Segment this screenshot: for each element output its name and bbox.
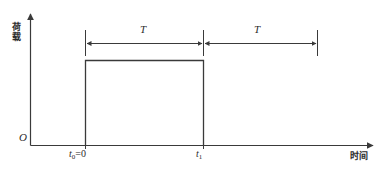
x-tick-label-t0: t0=0 bbox=[69, 149, 86, 161]
load-pulse-rectangle bbox=[86, 61, 204, 146]
y-axis-label: 荷载 bbox=[7, 22, 20, 42]
x-tick-label-t1: t1 bbox=[196, 149, 202, 161]
origin-label: O bbox=[19, 132, 27, 143]
load-vs-time-figure: O 荷载 时间 t0=0 t1 T T bbox=[0, 0, 389, 174]
figure-canvas bbox=[0, 0, 389, 174]
tick-subscript-t1: 1 bbox=[199, 153, 203, 161]
tick-suffix-t0: =0 bbox=[75, 148, 86, 159]
x-axis-label: 时间 bbox=[350, 152, 368, 161]
period-label-1: T bbox=[140, 24, 146, 35]
period-label-2: T bbox=[254, 24, 260, 35]
